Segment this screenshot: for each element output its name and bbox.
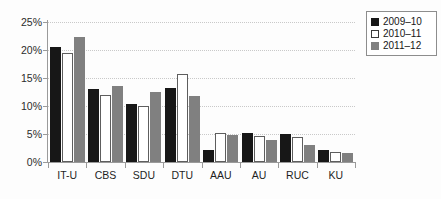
bar bbox=[126, 104, 137, 162]
bar-group bbox=[317, 22, 355, 162]
bar bbox=[227, 135, 238, 162]
x-axis-tick-mark bbox=[355, 163, 356, 168]
bar bbox=[280, 134, 291, 162]
legend-swatch-icon bbox=[371, 42, 379, 50]
legend-item[interactable]: 2011–12 bbox=[371, 40, 432, 51]
plot-area bbox=[48, 22, 355, 162]
x-axis-tick-label: CBS bbox=[95, 169, 117, 181]
y-axis-tick-label: 15% bbox=[2, 72, 42, 84]
bar bbox=[88, 89, 99, 162]
bar-group bbox=[240, 22, 278, 162]
legend-item[interactable]: 2010–11 bbox=[371, 28, 432, 39]
bar-group bbox=[278, 22, 316, 162]
bar bbox=[50, 47, 61, 162]
legend-label: 2009–10 bbox=[383, 17, 422, 27]
bar bbox=[203, 150, 214, 162]
bar bbox=[189, 96, 200, 162]
x-axis-tick-mark bbox=[125, 163, 126, 168]
x-axis-tick-mark bbox=[240, 163, 241, 168]
y-axis-tick-mark bbox=[43, 22, 48, 23]
x-axis-tick-label: AAU bbox=[210, 169, 232, 181]
bar bbox=[242, 133, 253, 162]
bar bbox=[330, 152, 341, 162]
bar bbox=[150, 92, 161, 162]
bar bbox=[74, 37, 85, 162]
x-axis-tick-mark bbox=[163, 163, 164, 168]
legend-label: 2010–11 bbox=[383, 29, 421, 39]
x-axis-tick-label: KU bbox=[329, 169, 344, 181]
bar bbox=[177, 74, 188, 162]
bar-group bbox=[48, 22, 86, 162]
x-axis-tick-mark bbox=[86, 163, 87, 168]
y-axis-tick-label: 0% bbox=[2, 156, 42, 168]
bar bbox=[318, 150, 329, 162]
x-axis-tick-label: RUC bbox=[286, 169, 309, 181]
x-axis-labels: IT-UCBSSDUDTUAAUAURUCKU bbox=[48, 169, 355, 189]
bar bbox=[215, 133, 226, 162]
legend-item[interactable]: 2009–10 bbox=[371, 16, 432, 27]
y-axis-tick-label: 5% bbox=[2, 128, 42, 140]
bar bbox=[138, 106, 149, 162]
x-axis-tick-mark bbox=[278, 163, 279, 168]
x-axis-tick-label: IT-U bbox=[57, 169, 77, 181]
x-axis-tick-mark bbox=[48, 163, 49, 168]
x-axis-tick-label: AU bbox=[252, 169, 267, 181]
bar bbox=[62, 53, 73, 162]
bar-group bbox=[163, 22, 201, 162]
y-axis-tick-mark bbox=[43, 50, 48, 51]
bar-group bbox=[202, 22, 240, 162]
x-axis-tick-label: SDU bbox=[133, 169, 155, 181]
bar bbox=[342, 153, 353, 162]
y-axis-tick-label: 10% bbox=[2, 100, 42, 112]
y-axis-tick-mark bbox=[43, 106, 48, 107]
legend-label: 2011–12 bbox=[383, 41, 421, 51]
bar bbox=[165, 88, 176, 162]
x-axis-tick-mark bbox=[317, 163, 318, 168]
y-axis-tick-mark bbox=[43, 134, 48, 135]
bar bbox=[292, 137, 303, 162]
bar bbox=[112, 86, 123, 162]
x-axis-tick-mark bbox=[202, 163, 203, 168]
y-axis-tick-mark bbox=[43, 78, 48, 79]
bar bbox=[100, 95, 111, 162]
y-axis-tick-label: 20% bbox=[2, 44, 42, 56]
y-axis: 0%5%10%15%20%25% bbox=[0, 22, 42, 162]
x-axis-tick-label: DTU bbox=[172, 169, 194, 181]
bar bbox=[254, 136, 265, 162]
legend-swatch-icon bbox=[371, 18, 379, 26]
bar-group bbox=[86, 22, 124, 162]
bar bbox=[266, 140, 277, 162]
chart-legend: 2009–102010–112011–12 bbox=[366, 11, 437, 56]
bar-group bbox=[125, 22, 163, 162]
y-axis-tick-label: 25% bbox=[2, 16, 42, 28]
bar-chart: 0%5%10%15%20%25% IT-UCBSSDUDTUAAUAURUCKU… bbox=[0, 0, 441, 199]
bar bbox=[304, 145, 315, 162]
legend-swatch-icon bbox=[371, 30, 379, 38]
